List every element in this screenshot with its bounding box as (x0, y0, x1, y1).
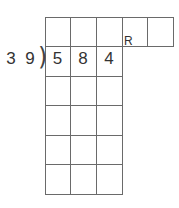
grid-cell (45, 105, 71, 136)
grid-cell (96, 135, 123, 165)
grid-cell (70, 76, 97, 106)
grid-cell (45, 76, 71, 106)
divisor-digit: 9 (23, 50, 37, 67)
grid-cell (70, 135, 97, 165)
dividend-digit: 8 (70, 50, 96, 67)
grid-cell (96, 164, 123, 195)
grid-cell (70, 105, 97, 136)
divisor-digit: 3 (4, 50, 18, 67)
grid-cell (45, 164, 71, 195)
dividend-digit: 4 (96, 50, 122, 67)
grid-cell (96, 105, 123, 136)
dividend-digit: 5 (45, 50, 70, 67)
grid-cell (147, 17, 174, 47)
grid-cell (96, 76, 123, 106)
remainder-label: R (124, 35, 133, 47)
grid-cell (70, 164, 97, 195)
grid-cell (45, 135, 71, 165)
grid-cell (70, 17, 97, 47)
grid-cell (96, 17, 123, 47)
grid-cell (45, 17, 71, 47)
